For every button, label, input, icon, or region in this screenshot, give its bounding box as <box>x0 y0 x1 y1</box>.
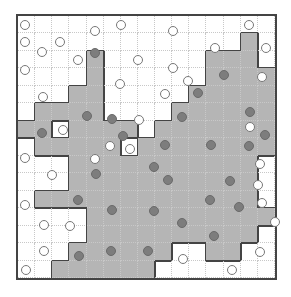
grid-cell[interactable] <box>189 191 206 208</box>
grid-cell[interactable] <box>172 138 189 155</box>
grid-cell[interactable] <box>121 156 138 173</box>
grid-cell[interactable] <box>138 261 155 278</box>
grid-cell[interactable] <box>206 173 223 190</box>
grid-cell[interactable] <box>224 51 241 68</box>
grid-cell[interactable] <box>52 191 69 208</box>
grid-cell[interactable] <box>155 191 172 208</box>
grid-cell[interactable] <box>35 138 52 155</box>
grid-cell[interactable] <box>104 51 121 68</box>
grid-cell[interactable] <box>224 86 241 103</box>
grid-cell[interactable] <box>121 261 138 278</box>
grid-cell[interactable] <box>206 121 223 138</box>
grid-cell[interactable] <box>224 33 241 50</box>
grid-cell[interactable] <box>155 103 172 120</box>
grid-cell[interactable] <box>104 33 121 50</box>
grid-cell[interactable] <box>189 156 206 173</box>
grid-cell[interactable] <box>104 261 121 278</box>
grid-cell[interactable] <box>52 103 69 120</box>
grid-cell[interactable] <box>52 138 69 155</box>
grid-cell[interactable] <box>189 243 206 260</box>
grid-cell[interactable] <box>155 261 172 278</box>
grid-cell[interactable] <box>35 191 52 208</box>
grid-cell[interactable] <box>87 86 104 103</box>
grid-cell[interactable] <box>241 261 258 278</box>
grid-cell[interactable] <box>121 226 138 243</box>
grid-cell[interactable] <box>224 121 241 138</box>
grid-cell[interactable] <box>155 33 172 50</box>
grid-cell[interactable] <box>258 16 275 33</box>
grid-cell[interactable] <box>206 51 223 68</box>
grid-cell[interactable] <box>206 243 223 260</box>
grid-cell[interactable] <box>189 103 206 120</box>
grid-cell[interactable] <box>241 51 258 68</box>
grid-cell[interactable] <box>138 173 155 190</box>
grid-cell[interactable] <box>121 33 138 50</box>
grid-cell[interactable] <box>258 226 275 243</box>
grid-cell[interactable] <box>69 121 86 138</box>
grid-cell[interactable] <box>18 226 35 243</box>
grid-cell[interactable] <box>87 243 104 260</box>
grid-cell[interactable] <box>138 33 155 50</box>
grid-cell[interactable] <box>52 68 69 85</box>
grid-cell[interactable] <box>18 208 35 225</box>
grid-cell[interactable] <box>87 191 104 208</box>
grid-cell[interactable] <box>189 138 206 155</box>
grid-cell[interactable] <box>69 68 86 85</box>
grid-cell[interactable] <box>189 261 206 278</box>
grid-cell[interactable] <box>189 51 206 68</box>
grid-cell[interactable] <box>189 208 206 225</box>
grid-cell[interactable] <box>155 226 172 243</box>
grid-cell[interactable] <box>87 226 104 243</box>
grid-cell[interactable] <box>18 173 35 190</box>
grid-cell[interactable] <box>52 86 69 103</box>
grid-cell[interactable] <box>69 156 86 173</box>
grid-cell[interactable] <box>87 208 104 225</box>
grid-cell[interactable] <box>138 16 155 33</box>
grid-cell[interactable] <box>18 86 35 103</box>
grid-cell[interactable] <box>35 68 52 85</box>
grid-cell[interactable] <box>52 16 69 33</box>
grid-cell[interactable] <box>172 173 189 190</box>
puzzle-board[interactable] <box>16 14 277 280</box>
grid-cell[interactable] <box>18 243 35 260</box>
grid-cell[interactable] <box>224 138 241 155</box>
grid-cell[interactable] <box>189 16 206 33</box>
grid-cell[interactable] <box>241 68 258 85</box>
grid-cell[interactable] <box>138 226 155 243</box>
grid-cell[interactable] <box>138 68 155 85</box>
grid-cell[interactable] <box>69 86 86 103</box>
grid-cell[interactable] <box>258 138 275 155</box>
grid-cell[interactable] <box>258 261 275 278</box>
grid-cell[interactable] <box>35 16 52 33</box>
grid-cell[interactable] <box>172 86 189 103</box>
grid-cell[interactable] <box>172 121 189 138</box>
grid-cell[interactable] <box>172 191 189 208</box>
grid-cell[interactable] <box>224 156 241 173</box>
grid-cell[interactable] <box>172 156 189 173</box>
grid-cell[interactable] <box>138 86 155 103</box>
grid-cell[interactable] <box>172 33 189 50</box>
grid-cell[interactable] <box>206 261 223 278</box>
grid-cell[interactable] <box>121 191 138 208</box>
grid-cell[interactable] <box>206 86 223 103</box>
grid-cell[interactable] <box>104 173 121 190</box>
grid-cell[interactable] <box>189 173 206 190</box>
grid-cell[interactable] <box>241 86 258 103</box>
grid-cell[interactable] <box>155 243 172 260</box>
grid-cell[interactable] <box>189 33 206 50</box>
grid-cell[interactable] <box>258 103 275 120</box>
grid-cell[interactable] <box>121 243 138 260</box>
grid-cell[interactable] <box>87 261 104 278</box>
grid-cell[interactable] <box>52 261 69 278</box>
grid-cell[interactable] <box>87 68 104 85</box>
grid-cell[interactable] <box>138 138 155 155</box>
grid-cell[interactable] <box>224 226 241 243</box>
grid-cell[interactable] <box>206 208 223 225</box>
grid-cell[interactable] <box>189 226 206 243</box>
grid-cell[interactable] <box>241 226 258 243</box>
grid-cell[interactable] <box>35 103 52 120</box>
grid-cell[interactable] <box>189 121 206 138</box>
grid-cell[interactable] <box>52 51 69 68</box>
grid-cell[interactable] <box>172 226 189 243</box>
grid-cell[interactable] <box>206 16 223 33</box>
